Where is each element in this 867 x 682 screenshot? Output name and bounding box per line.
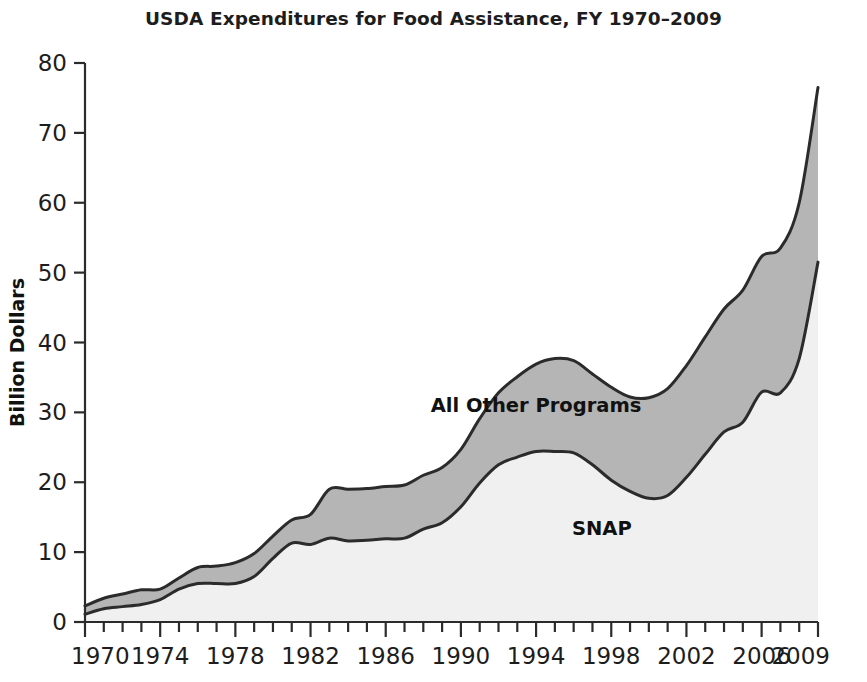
y-tick-label: 20 bbox=[38, 469, 67, 495]
x-tick-label: 1974 bbox=[131, 643, 190, 669]
x-tick-label: 1970 bbox=[71, 643, 130, 669]
y-tick-label: 40 bbox=[38, 330, 67, 356]
y-tick-label: 60 bbox=[38, 190, 67, 216]
x-tick-label: 1994 bbox=[507, 643, 566, 669]
area-series-layer bbox=[85, 87, 818, 622]
y-tick-label: 50 bbox=[38, 260, 67, 286]
y-axis-title-text: Billion Dollars bbox=[6, 278, 28, 427]
snap-label: SNAP bbox=[572, 517, 632, 540]
y-axis-title: Billion Dollars bbox=[6, 278, 28, 427]
area-chart-plot: 0102030405060708019701974197819821986199… bbox=[0, 0, 867, 682]
y-tick-label: 10 bbox=[38, 539, 67, 565]
x-tick-label: 1982 bbox=[281, 643, 340, 669]
all-other-programs-label: All Other Programs bbox=[431, 394, 642, 417]
y-tick-label: 80 bbox=[38, 50, 67, 76]
y-tick-label: 30 bbox=[38, 399, 67, 425]
x-tick-label: 2002 bbox=[657, 643, 716, 669]
x-tick-label: 1978 bbox=[206, 643, 265, 669]
y-tick-label: 70 bbox=[38, 120, 67, 146]
x-tick-label: 2009 bbox=[771, 643, 830, 669]
x-tick-label: 1990 bbox=[432, 643, 491, 669]
x-tick-label: 1998 bbox=[582, 643, 641, 669]
y-tick-label: 0 bbox=[52, 609, 67, 635]
chart-figure: USDA Expenditures for Food Assistance, F… bbox=[0, 0, 867, 682]
x-tick-label: 1986 bbox=[356, 643, 415, 669]
